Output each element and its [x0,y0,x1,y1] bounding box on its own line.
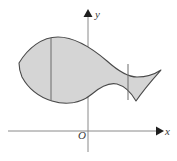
origin-label: O [78,130,86,141]
y-axis-label: y [95,9,100,20]
x-axis-label: x [165,126,170,137]
diagram-svg [0,0,177,161]
shaded-region [19,37,161,103]
arrow-up-icon [84,9,93,17]
figure-canvas: y x O [0,0,177,161]
arrow-right-icon [156,127,164,136]
